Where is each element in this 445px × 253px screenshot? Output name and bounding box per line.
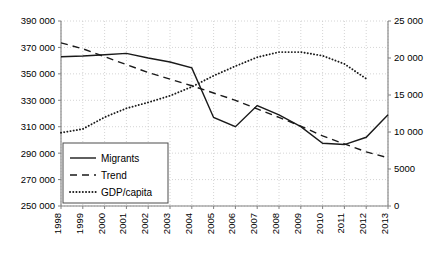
y-axis-left-tick-label: 350 000 (21, 68, 55, 79)
series-line-migrants (61, 53, 388, 144)
x-axis-tick-label: 1998 (52, 213, 63, 234)
x-axis-tick-label: 2010 (314, 213, 325, 234)
line-chart: 250 000270 000290 000310 000330 000350 0… (0, 0, 445, 253)
y-axis-right-tick-label: 25 000 (394, 15, 423, 26)
y-axis-left-tick-label: 370 000 (21, 42, 55, 53)
x-axis-tick-label: 2011 (335, 213, 346, 233)
x-axis-tick-label: 2012 (357, 213, 368, 234)
y-axis-right-tick-label: 10 000 (394, 126, 423, 137)
x-axis-tick-label: 2003 (161, 213, 172, 234)
y-axis-left-tick-label: 250 000 (21, 200, 55, 211)
y-axis-right-tick-label: 5000 (394, 163, 415, 174)
x-axis-tick-label: 2013 (379, 213, 390, 234)
y-axis-right-tick-label: 20 000 (394, 52, 423, 63)
x-axis-tick-label: 2002 (139, 213, 150, 234)
y-axis-right-tick-label: 0 (394, 200, 399, 211)
y-axis-left-tick-label: 310 000 (21, 121, 55, 132)
x-axis-tick-label: 1999 (74, 213, 85, 234)
legend-label: Migrants (101, 153, 139, 164)
x-axis-tick-label: 2006 (226, 213, 237, 234)
x-axis-tick-label: 2004 (183, 213, 194, 234)
y-axis-left-tick-label: 290 000 (21, 148, 55, 159)
x-axis-tick-label: 2007 (248, 213, 259, 234)
x-axis-tick-label: 2005 (205, 213, 216, 234)
chart-container: 250 000270 000290 000310 000330 000350 0… (0, 0, 445, 253)
y-axis-left-tick-label: 390 000 (21, 15, 55, 26)
y-axis-right-tick-label: 15 000 (394, 89, 423, 100)
legend-label: Trend (101, 170, 127, 181)
x-axis-tick-label: 2008 (270, 213, 281, 234)
y-axis-left-tick-label: 270 000 (21, 174, 55, 185)
legend-label: GDP/capita (101, 187, 153, 198)
x-axis-tick-label: 2009 (292, 213, 303, 234)
x-axis-tick-label: 2001 (117, 213, 128, 234)
series-line-trend (61, 43, 388, 158)
y-axis-left-tick-label: 330 000 (21, 95, 55, 106)
x-axis-tick-label: 2000 (96, 213, 107, 234)
